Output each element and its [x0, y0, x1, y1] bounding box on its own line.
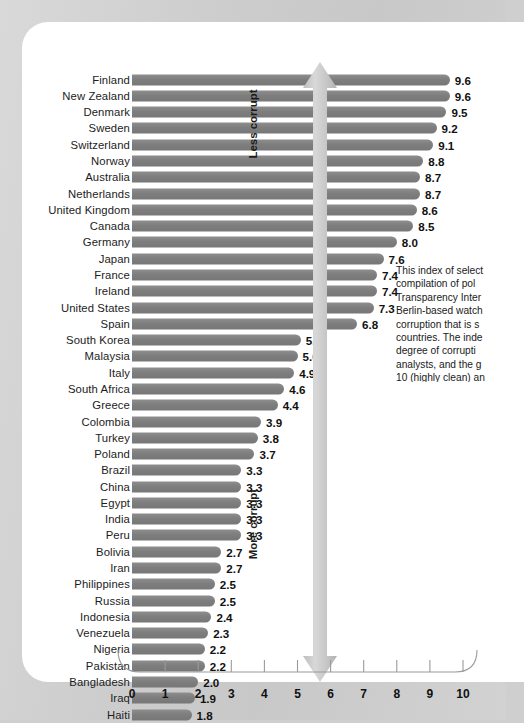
bar	[132, 335, 301, 346]
bar-row: Venezuela2.3	[0, 625, 506, 641]
bar-category-label: Turkey	[0, 432, 130, 444]
bar	[132, 237, 397, 248]
bar-value-label: 3.8	[263, 431, 279, 444]
bar	[132, 481, 241, 492]
bar	[132, 497, 241, 508]
bar	[132, 514, 241, 525]
bar-value-label: 2.4	[216, 610, 232, 623]
bar-row: Brazil3.3	[0, 462, 506, 478]
bar-value-label: 3.7	[259, 448, 275, 461]
x-axis-tick-label: 2	[195, 687, 202, 701]
bar	[132, 221, 413, 232]
bar	[132, 172, 420, 183]
bar-value-label: 8.6	[422, 203, 438, 216]
bar	[132, 432, 258, 443]
bar	[132, 546, 221, 557]
side-note-line: This index of select	[396, 264, 514, 277]
bar	[132, 530, 241, 541]
bar-row: Haiti1.8	[0, 706, 506, 722]
bar-row: Indonesia2.4	[0, 609, 506, 625]
bar	[132, 253, 384, 264]
x-axis-tick-label: 10	[456, 687, 469, 701]
bar-value-label: 2.2	[210, 659, 226, 672]
bar-category-label: Finland	[0, 74, 130, 86]
bar-category-label: Brazil	[0, 464, 130, 476]
bar	[132, 318, 357, 329]
bar	[132, 416, 261, 427]
bar-value-label: 2.5	[220, 578, 236, 591]
bar-row: Colombia3.9	[0, 413, 506, 429]
bar	[132, 270, 377, 281]
bar-category-label: Malaysia	[0, 350, 130, 362]
bar	[132, 660, 205, 671]
bar-category-label: Canada	[0, 220, 130, 232]
bar-value-label: 2.2	[210, 643, 226, 656]
x-axis-tick-label: 3	[228, 687, 235, 701]
bar	[132, 644, 205, 655]
bar-row: Poland3.7	[0, 446, 506, 462]
bar	[132, 449, 254, 460]
bar	[132, 465, 241, 476]
bar-category-label: Bolivia	[0, 546, 130, 558]
bar-category-label: France	[0, 269, 130, 281]
bar	[132, 351, 298, 362]
x-axis-tick-label: 4	[261, 687, 268, 701]
bar-value-label: 2.5	[220, 594, 236, 607]
arrow-label-more-corrupt: More corrupt	[247, 489, 259, 559]
bar-category-label: Switzerland	[0, 139, 130, 151]
bar-category-label: India	[0, 513, 130, 525]
bar-value-label: 9.1	[438, 138, 454, 151]
bar	[132, 611, 211, 622]
bar-value-label: 5.0	[303, 350, 319, 363]
bar-value-label: 9.6	[455, 73, 471, 86]
bar-category-label: Spain	[0, 318, 130, 330]
bar-value-label: 8.8	[428, 155, 444, 168]
bar-value-label: 1.8	[197, 708, 213, 721]
bar-category-label: Ireland	[0, 285, 130, 297]
bar	[132, 286, 377, 297]
bar	[132, 709, 192, 720]
bar-category-label: New Zealand	[0, 90, 130, 102]
bar-value-label: 3.9	[266, 415, 282, 428]
bar	[132, 90, 450, 101]
bar	[132, 123, 437, 134]
bar-row: Australia8.7	[0, 169, 506, 185]
bar-category-label: Iran	[0, 562, 130, 574]
bar	[132, 677, 198, 688]
bar-value-label: 9.6	[455, 89, 471, 102]
x-axis-tick-label: 6	[327, 687, 334, 701]
bar	[132, 139, 433, 150]
side-note-line: compilation of pol	[396, 277, 514, 290]
bar-value-label: 8.7	[425, 187, 441, 200]
bar	[132, 579, 215, 590]
x-axis-tick-label: 5	[294, 687, 301, 701]
bar	[132, 400, 278, 411]
x-axis-tick-label: 8	[393, 687, 400, 701]
side-note-text: This index of selectcompilation of polTr…	[396, 264, 514, 382]
bar-category-label: Sweden	[0, 122, 130, 134]
bar-value-label: 8.5	[418, 220, 434, 233]
bar-value-label: 9.5	[451, 106, 467, 119]
bar-value-label: 2.7	[226, 562, 242, 575]
bar-value-label: 6.8	[362, 317, 378, 330]
bar-value-label: 8.7	[425, 171, 441, 184]
bar-value-label: 7.3	[379, 301, 395, 314]
bar-value-label: 2.0	[203, 676, 219, 689]
bar-row: United Kingdom8.6	[0, 202, 506, 218]
bar-value-label: 2.3	[213, 627, 229, 640]
bar-category-label: Russia	[0, 595, 130, 607]
bar-value-label: 3.3	[246, 464, 262, 477]
bar-category-label: Venezuela	[0, 627, 130, 639]
bar	[132, 204, 417, 215]
x-axis-tick-label: 0	[129, 687, 136, 701]
bar-row: Russia2.5	[0, 592, 506, 608]
bar-value-label: 5.1	[306, 334, 322, 347]
side-note-line: 10 (highly clean) an	[396, 371, 514, 382]
bar	[132, 302, 374, 313]
bar-row: Philippines2.5	[0, 576, 506, 592]
bar-category-label: United Kingdom	[0, 204, 130, 216]
bar-category-label: Iraq	[0, 692, 130, 704]
bar-category-label: United States	[0, 302, 130, 314]
bar-category-label: Philippines	[0, 578, 130, 590]
bar-row: Finland9.6	[0, 72, 506, 88]
